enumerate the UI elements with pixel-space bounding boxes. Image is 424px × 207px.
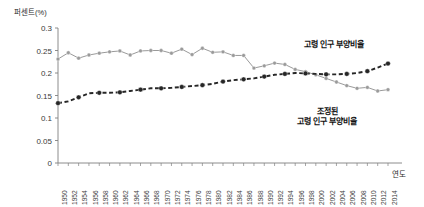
data-point [344,72,349,77]
data-point [190,53,194,57]
data-point [376,89,380,93]
data-point [273,61,277,65]
data-point [56,101,61,106]
data-point [138,87,143,92]
series-line-aged [58,48,388,91]
data-point [241,77,246,82]
data-point [128,53,132,57]
data-point [324,72,329,77]
data-point [282,72,287,77]
data-point [179,85,184,90]
data-point [66,51,70,55]
data-point [159,86,164,91]
data-point [200,46,204,50]
data-point [76,95,81,100]
data-point [139,49,143,53]
data-point [200,83,205,88]
data-point [77,56,81,60]
data-point [252,66,256,70]
data-point [231,54,235,58]
data-point [293,68,297,72]
data-point [180,47,184,51]
data-point [345,84,349,88]
data-point [324,77,328,81]
data-point [365,86,369,90]
data-point [242,54,246,58]
data-point [262,74,267,79]
data-point [386,88,390,92]
data-point [97,51,101,55]
data-point [303,71,308,76]
data-point [221,79,226,84]
data-point [87,53,91,57]
data-point [97,90,102,95]
data-point [211,50,215,54]
series-label-adjusted-line2: 고령 인구 부양비율 [297,117,357,127]
data-point [108,50,112,54]
data-point [170,51,174,55]
series-label-adjusted-line1: 조정된 [297,107,357,117]
data-point [117,90,122,95]
data-point [221,50,225,54]
plot-area [0,0,424,207]
data-point [355,86,359,90]
chart-container: 퍼센트(%) 연도 00.050.10.150.20.250.3 1950195… [0,0,424,207]
data-point [149,49,153,53]
data-point [365,69,370,74]
data-point [335,80,339,84]
data-point [56,57,60,61]
series-label-aged-text: 고령 인구 부양비율 [304,40,364,49]
data-point [262,64,266,68]
series-label-adjusted: 조정된 고령 인구 부양비율 [297,107,357,127]
data-point [386,61,391,66]
series-label-aged: 고령 인구 부양비율 [304,40,364,50]
data-point [283,63,287,67]
data-point [159,49,163,53]
data-point [118,49,122,53]
